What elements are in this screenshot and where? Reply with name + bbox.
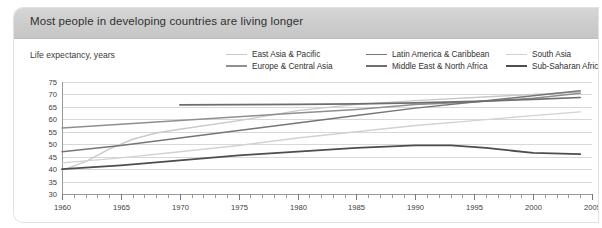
y-axis-tick-label: 40 <box>49 165 57 174</box>
y-axis-tick-label: 75 <box>49 78 57 87</box>
y-axis-tick-label: 70 <box>49 90 57 99</box>
y-axis-tick-label: 45 <box>49 153 57 162</box>
y-axis-tick-label: 55 <box>49 128 57 137</box>
legend-row: East Asia & PacificLatin America & Carib… <box>226 48 594 60</box>
screenshot-root: Most people in developing countries are … <box>0 0 602 228</box>
x-axis-tick-label: 2005 <box>584 203 598 212</box>
legend-item-label: Europe & Central Asia <box>252 62 333 71</box>
legend-item-label: Latin America & Caribbean <box>392 50 489 59</box>
chart-card: Most people in developing countries are … <box>14 8 598 222</box>
x-axis-tick-label: 1975 <box>231 203 248 212</box>
legend-item-label: Sub-Saharan Africa <box>532 62 598 71</box>
chart-legend: East Asia & PacificLatin America & Carib… <box>226 48 594 74</box>
legend-item[interactable]: South Asia <box>506 48 594 60</box>
legend-item[interactable]: Europe & Central Asia <box>226 60 366 72</box>
page-title: Most people in developing countries are … <box>30 15 303 27</box>
legend-color-swatch <box>226 65 247 67</box>
x-axis-tick-label: 1970 <box>172 203 189 212</box>
y-axis-tick-label: 60 <box>49 115 57 124</box>
legend-row: Europe & Central AsiaMiddle East & North… <box>226 60 594 72</box>
plot-area: 3035404550556065707519601965197019751980… <box>14 76 598 222</box>
y-axis-tick-label: 30 <box>49 190 57 199</box>
chart-body: Life expectancy, years East Asia & Pacif… <box>14 39 598 222</box>
legend-item-label: Middle East & North Africa <box>392 62 488 71</box>
legend-color-swatch <box>226 54 247 55</box>
legend-item[interactable]: East Asia & Pacific <box>226 48 366 60</box>
legend-color-swatch <box>506 54 527 55</box>
y-axis-tick-label: 65 <box>49 103 57 112</box>
legend-item-label: South Asia <box>532 50 571 59</box>
legend-item-label: East Asia & Pacific <box>252 50 320 59</box>
legend-color-swatch <box>366 54 387 55</box>
x-axis-tick-label: 1965 <box>113 203 130 212</box>
x-axis-tick-label: 1985 <box>348 203 365 212</box>
x-axis-tick-label: 1990 <box>407 203 424 212</box>
x-axis-tick-label: 2000 <box>525 203 542 212</box>
y-axis-tick-label: 35 <box>49 178 57 187</box>
y-axis-tick-label: 50 <box>49 140 57 149</box>
x-axis-tick-label: 1960 <box>54 203 71 212</box>
card-title-bar: Most people in developing countries are … <box>14 8 598 39</box>
legend-item[interactable]: Latin America & Caribbean <box>366 48 506 60</box>
chart-subtitle: Life expectancy, years <box>30 50 115 60</box>
legend-color-swatch <box>506 65 527 67</box>
legend-item[interactable]: Sub-Saharan Africa <box>506 60 594 72</box>
line-chart-svg: 3035404550556065707519601965197019751980… <box>14 76 598 222</box>
legend-item[interactable]: Middle East & North Africa <box>366 60 506 72</box>
x-axis-tick-label: 1980 <box>290 203 307 212</box>
legend-color-swatch <box>366 65 387 67</box>
x-axis-tick-label: 1995 <box>466 203 483 212</box>
